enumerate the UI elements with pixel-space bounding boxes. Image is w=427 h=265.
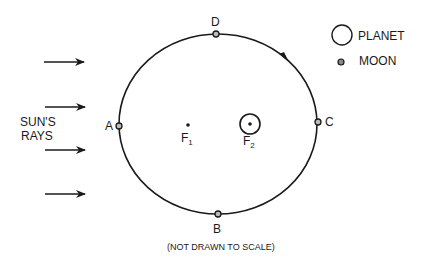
moon-icon: [315, 119, 321, 125]
moon-icon: [213, 31, 219, 37]
focus-f1: F1: [181, 123, 193, 147]
position-label-c: C: [325, 115, 334, 129]
orbit-path: [119, 34, 317, 214]
moon-position-b: B: [213, 211, 221, 236]
legend: PLANET MOON: [332, 25, 405, 68]
position-label-d: D: [211, 15, 220, 29]
position-label-a: A: [105, 119, 113, 133]
legend-planet-label: PLANET: [358, 29, 405, 43]
position-label-b: B: [213, 222, 221, 236]
moon-icon: [215, 211, 221, 217]
planet-legend-icon: [332, 25, 352, 45]
focus-label-f1: F1: [181, 131, 193, 147]
legend-moon-label: MOON: [359, 54, 396, 68]
focus-point-icon: [248, 122, 252, 126]
orbit-diagram: SUN'S RAYS A B C D F1 F2 PLANET MOON (NO…: [0, 0, 427, 265]
sun-rays-label-line2: RAYS: [21, 129, 53, 143]
focus-f2: F2: [240, 114, 260, 150]
moon-position-c: C: [315, 115, 334, 129]
footnote: (NOT DRAWN TO SCALE): [167, 242, 275, 252]
focus-point-icon: [186, 123, 190, 127]
focus-label-f2: F2: [243, 134, 255, 150]
sun-rays-label-line1: SUN'S: [20, 115, 56, 129]
moon-legend-icon: [338, 59, 344, 65]
orbit-direction-arrow-icon: [279, 48, 289, 62]
moon-icon: [116, 123, 122, 129]
